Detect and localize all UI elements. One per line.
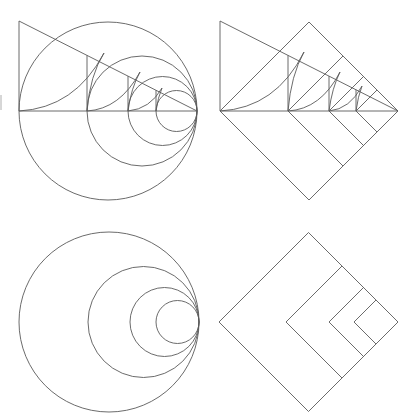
tangent-circle-1 xyxy=(19,232,199,412)
outer-diamond xyxy=(219,233,398,412)
tangent-circle-3 xyxy=(130,288,199,357)
inner-diamond-3 xyxy=(354,300,376,344)
panel-bottom-left-nested-circles xyxy=(19,232,199,412)
panel-top-right-squares-triangle xyxy=(220,21,398,200)
construction-arc-1 xyxy=(220,52,304,111)
panel-top-left-circles-triangle xyxy=(19,21,197,200)
construction-arc-2 xyxy=(288,52,304,111)
right-triangle xyxy=(220,21,398,111)
construction-arc-5 xyxy=(329,86,362,111)
right-triangle xyxy=(19,21,197,111)
geometric-diagram xyxy=(0,0,415,419)
tangent-circle-4 xyxy=(156,301,199,344)
inner-diamond-2 xyxy=(329,288,364,357)
tangent-circle-2 xyxy=(88,267,199,378)
construction-arc-1 xyxy=(19,53,104,111)
panel-bottom-right-nested-diamonds xyxy=(219,233,398,412)
inner-diamond-1 xyxy=(286,266,342,378)
